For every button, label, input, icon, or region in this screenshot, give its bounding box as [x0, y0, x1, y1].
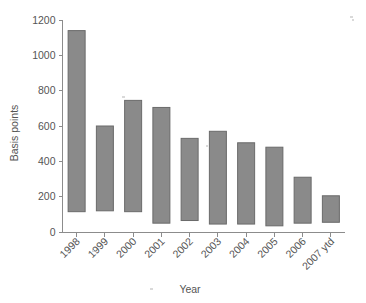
bar — [68, 31, 85, 212]
bar — [209, 131, 226, 224]
y-tick-label: 0 — [50, 226, 56, 238]
y-tick-label: 1000 — [32, 49, 56, 61]
x-tick-label: 2006 — [283, 235, 308, 260]
x-tick-label: 2001 — [142, 235, 167, 260]
chart-container: 020040060080010001200 199819992000200120… — [0, 0, 366, 303]
bars-group — [68, 31, 339, 226]
x-tick-label: 1999 — [85, 235, 110, 260]
bar — [238, 143, 255, 224]
bar — [125, 100, 142, 211]
x-tick-label: 2003 — [198, 235, 223, 260]
y-tick-group: 020040060080010001200 — [32, 14, 62, 238]
y-tick-label: 200 — [38, 190, 56, 202]
bar — [294, 177, 311, 223]
bar — [266, 147, 283, 226]
bar — [181, 138, 198, 220]
x-tick-label: 1998 — [57, 235, 82, 260]
y-tick-label: 400 — [38, 155, 56, 167]
x-tick-label: 2005 — [255, 235, 280, 260]
x-tick-label: 2000 — [114, 235, 139, 260]
y-axis-title: Basis points — [8, 105, 20, 162]
x-tick-label: 2002 — [170, 235, 195, 260]
x-tick-group: 1998199920002001200220032004200520062007… — [57, 233, 336, 272]
y-tick-label: 1200 — [32, 14, 56, 26]
bar — [153, 107, 170, 223]
x-axis-title: Year — [179, 283, 201, 295]
y-tick-label: 800 — [38, 84, 56, 96]
x-tick-label: 2004 — [227, 235, 252, 260]
bar — [96, 126, 113, 211]
bar — [322, 196, 339, 223]
bar-chart: 020040060080010001200 199819992000200120… — [0, 0, 366, 303]
y-tick-label: 600 — [38, 120, 56, 132]
